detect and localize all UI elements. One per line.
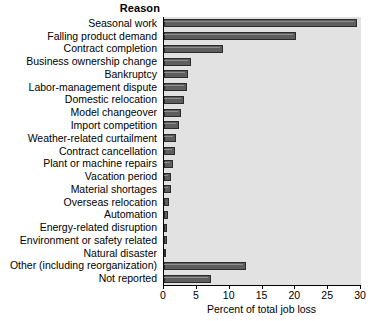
category-label: Material shortages <box>0 184 157 195</box>
category-label: Energy-related disruption <box>0 222 157 233</box>
bar <box>164 249 166 257</box>
bar-highlight <box>164 264 243 265</box>
bar-highlight <box>164 85 184 86</box>
category-label: Automation <box>0 209 157 220</box>
category-label-list: Seasonal workFalling product demandContr… <box>0 17 160 285</box>
category-label: Business ownership change <box>0 56 157 67</box>
category-label: Import competition <box>0 120 157 131</box>
bar-highlight <box>164 111 178 112</box>
bar <box>164 198 169 206</box>
bar-highlight <box>164 123 176 124</box>
category-label: Overseas relocation <box>0 197 157 208</box>
bar-highlight <box>164 149 172 150</box>
category-label: Seasonal work <box>0 18 157 29</box>
bar-highlight <box>164 72 185 73</box>
x-axis-tick-label: 20 <box>282 289 306 301</box>
bar-highlight <box>164 136 173 137</box>
x-axis-tick-label: 5 <box>184 289 208 301</box>
category-label: Falling product demand <box>0 31 157 42</box>
x-axis-title: Percent of total job loss <box>163 303 360 315</box>
bar-highlight <box>164 187 168 188</box>
bar <box>164 224 167 232</box>
category-label: Domestic relocation <box>0 94 157 105</box>
bar-highlight <box>164 47 220 48</box>
category-label: Vacation period <box>0 171 157 182</box>
category-label: Environment or safety related <box>0 235 157 246</box>
column-header-reason: Reason <box>0 2 160 14</box>
category-label: Plant or machine repairs <box>0 158 157 169</box>
bar-highlight <box>164 21 354 22</box>
category-label: Contract cancellation <box>0 146 157 157</box>
x-axis-tick-label: 25 <box>315 289 339 301</box>
category-label: Not reported <box>0 273 157 284</box>
x-axis-tick-label: 10 <box>217 289 241 301</box>
bar-highlight <box>164 162 170 163</box>
bar-highlight <box>164 277 208 278</box>
bar <box>164 211 168 219</box>
bar-highlight <box>164 60 188 61</box>
category-label: Other (including reorganization) <box>0 260 157 271</box>
category-label: Model changeover <box>0 107 157 118</box>
category-label: Weather-related curtailment <box>0 133 157 144</box>
bar-highlight <box>164 98 181 99</box>
x-axis-tick-label: 0 <box>151 289 175 301</box>
category-label: Labor-management dispute <box>0 82 157 93</box>
category-label: Contract completion <box>0 43 157 54</box>
bar-highlight <box>164 34 293 35</box>
category-label: Bankruptcy <box>0 69 157 80</box>
bar <box>164 236 167 244</box>
x-axis-tick-label: 15 <box>250 289 274 301</box>
x-axis-tick-label: 30 <box>348 289 371 301</box>
plot-area <box>163 17 361 285</box>
bar-highlight <box>164 175 168 176</box>
category-label: Natural disaster <box>0 248 157 259</box>
